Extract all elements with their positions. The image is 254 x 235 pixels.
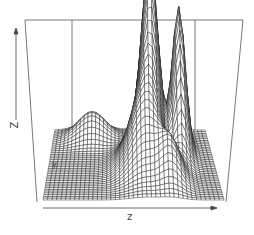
surface-plot [0, 0, 254, 235]
x-axis-arrow [43, 206, 217, 210]
y-axis-label: y [52, 161, 57, 169]
x-axis-label: z [127, 212, 132, 222]
z-axis-arrow [14, 28, 18, 120]
z-axis-label: Z [10, 122, 20, 129]
surface-wireframe [43, 0, 224, 200]
